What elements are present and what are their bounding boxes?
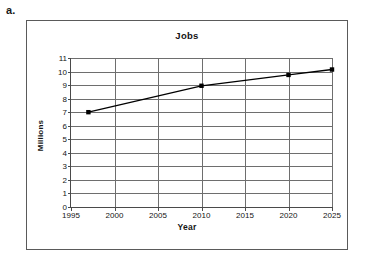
series-line-chart — [71, 58, 332, 207]
y-tick-label: 2 — [63, 175, 67, 184]
series-line — [88, 70, 332, 113]
y-tick-label: 4 — [63, 148, 67, 157]
y-tick-label: 10 — [58, 67, 67, 76]
y-tick-label: 9 — [63, 81, 67, 90]
chart-title: Jobs — [27, 30, 347, 41]
x-tick-label: 2025 — [323, 211, 341, 220]
x-tick-label: 2005 — [149, 211, 167, 220]
y-tick-label: 11 — [59, 54, 67, 63]
x-tick-label: 2000 — [106, 211, 124, 220]
x-axis-title: Year — [27, 222, 347, 232]
y-tick-label: 3 — [63, 162, 67, 171]
x-tick-label: 1995 — [62, 211, 80, 220]
data-point-marker — [199, 84, 203, 88]
plot-area: 01234567891011 1995200020052010201520202… — [70, 58, 332, 208]
y-tick-label: 7 — [63, 108, 67, 117]
x-tick-label: 2010 — [193, 211, 211, 220]
y-tick-label: 5 — [63, 135, 67, 144]
y-tick-label: 6 — [63, 121, 67, 130]
data-point-marker — [86, 110, 90, 114]
y-tick-label: 1 — [63, 189, 67, 198]
x-tick-label: 2020 — [280, 211, 298, 220]
x-tick-label: 2015 — [236, 211, 254, 220]
gridline-vertical — [332, 58, 333, 207]
data-point-marker — [286, 73, 290, 77]
y-axis-title: Millions — [36, 101, 45, 171]
figure-label: a. — [6, 4, 16, 16]
data-point-marker — [330, 67, 334, 71]
y-tick-label: 8 — [63, 94, 67, 103]
chart-frame: Jobs Millions 01234567891011 19952000200… — [26, 20, 348, 250]
